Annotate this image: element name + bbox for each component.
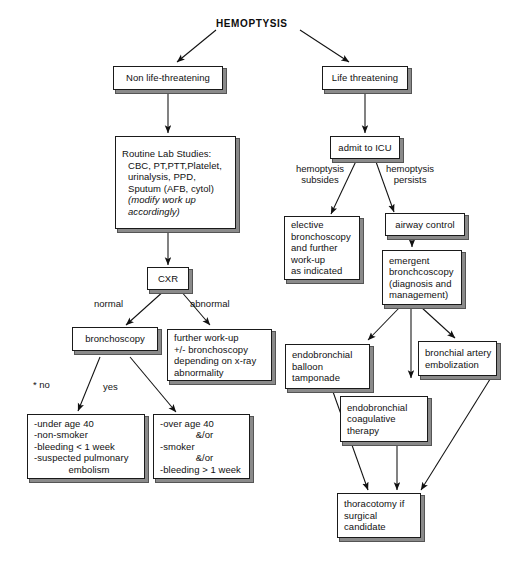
balloon-line-3: tamponade [292, 372, 340, 384]
elective-line-2: bronchoscopy [291, 231, 351, 243]
lab-line-2: CBC, PT,PTT,Platelet, [122, 160, 222, 172]
lab-line-5: (modify work up [122, 194, 196, 206]
edge-label-normal: normal [94, 298, 123, 309]
edge-embolization-to-thoracotomy [421, 376, 492, 490]
edge-cxr-to-bronch [126, 290, 165, 325]
node-label: admit to ICU [338, 142, 391, 154]
coagulative-line-2: coagulative [347, 413, 396, 425]
node-label: airway control [395, 219, 454, 231]
embolization-line-1: bronchial artery [425, 347, 491, 359]
edge-label-no: * no [33, 379, 50, 390]
node-bronchial-artery-embolization[interactable]: bronchial artery embolization [418, 341, 497, 376]
node-routine-lab-studies[interactable]: Routine Lab Studies: CBC, PT,PTT,Platele… [115, 136, 236, 229]
persists-line-1: hemoptysis [386, 163, 434, 174]
edge-label-abnormal: abnormal [190, 298, 230, 309]
thoracotomy-line-3: candidate [344, 521, 386, 533]
balloon-line-1: endobronchial [292, 349, 352, 361]
coagulative-line-3: therapy [347, 425, 379, 437]
highrisk-line-1: -over age 40 [160, 418, 214, 430]
edge-emergent-to-embolization [421, 307, 455, 338]
edge-title-to-nonlife [177, 30, 216, 62]
edge-title-to-life [300, 30, 349, 62]
node-bronchoscopy[interactable]: bronchoscopy [72, 327, 158, 351]
node-life-threatening[interactable]: Life threatening [322, 66, 408, 90]
lab-line-6: accordingly) [122, 206, 180, 218]
subsides-line-2: subsides [301, 174, 339, 185]
elective-line-5: as indicated [291, 265, 342, 277]
further-line-1: further work-up [174, 332, 239, 344]
balloon-line-2: balloon [292, 361, 323, 373]
further-line-4: abnormality [174, 367, 224, 379]
emergent-line-1: emergent [389, 255, 430, 267]
subsides-line-1: hemoptysis [296, 163, 344, 174]
highrisk-line-3: -smoker [160, 441, 195, 453]
thoracotomy-line-2: surgical [344, 510, 377, 522]
further-line-3: depending on x-ray [174, 355, 256, 367]
emergent-line-2: bronchcoscopy [389, 266, 454, 278]
lab-line-1: Routine Lab Studies: [122, 148, 211, 160]
page-title: HEMOPTYSIS [216, 18, 288, 29]
lowrisk-line-5: embolism [34, 464, 144, 476]
lab-line-4: Sputum (AFB, cytol) [122, 183, 214, 195]
edge-label-hemoptysis-persists: hemoptysispersists [386, 163, 434, 185]
node-thoracotomy[interactable]: thoracotomy if surgical candidate [337, 493, 421, 538]
thoracotomy-line-1: thoracotomy if [344, 498, 404, 510]
lowrisk-line-1: -under age 40 [34, 418, 94, 430]
edge-label-yes: yes [103, 381, 118, 392]
edge-emergent-to-balloon [368, 307, 400, 340]
node-label: bronchoscopy [85, 333, 145, 345]
coagulative-line-1: endobronchial [347, 402, 407, 414]
node-label: Non life-threatening [126, 72, 210, 84]
elective-line-4: work-up [291, 254, 325, 266]
emergent-line-4: management) [389, 289, 448, 301]
edge-label-hemoptysis-subsides: hemoptysissubsides [296, 163, 344, 185]
node-non-life-threatening[interactable]: Non life-threatening [113, 66, 223, 90]
lowrisk-line-3: -bleeding < 1 week [34, 441, 115, 453]
elective-line-3: and further [291, 242, 338, 254]
persists-line-2: persists [394, 174, 427, 185]
embolization-line-2: embolization [425, 359, 479, 371]
emergent-line-3: (diagnosis and [389, 278, 452, 290]
node-emergent-bronchoscopy[interactable]: emergent bronchcoscopy (diagnosis and ma… [382, 250, 462, 305]
node-low-risk-criteria[interactable]: -under age 40 -non-smoker -bleeding < 1 … [27, 414, 145, 479]
node-admit-icu[interactable]: admit to ICU [330, 136, 400, 159]
edge-bronch-to-lowrisk [78, 357, 100, 411]
node-coagulative-therapy[interactable]: endobronchial coagulative therapy [340, 396, 428, 442]
flowchart-canvas: HEMOPTYSIS Non life-threatening Routine … [0, 0, 524, 578]
lowrisk-line-4: -suspected pulmonary [34, 452, 128, 464]
node-high-risk-criteria[interactable]: -over age 40 &/or -smoker &/or -bleeding… [153, 414, 250, 479]
node-balloon-tamponade[interactable]: endobronchial balloon tamponade [285, 344, 370, 389]
node-elective-bronchoscopy[interactable]: elective bronchoscopy and further work-u… [284, 216, 360, 280]
highrisk-line-2: &/or [160, 429, 249, 441]
node-cxr[interactable]: CXR [147, 267, 189, 290]
elective-line-1: elective [291, 219, 324, 231]
node-label: CXR [158, 273, 178, 285]
node-label: Life threatening [332, 72, 398, 84]
further-line-2: +/- bronchoscopy [174, 344, 248, 356]
highrisk-line-5: -bleeding > 1 week [160, 464, 241, 476]
lowrisk-line-2: -non-smoker [34, 429, 88, 441]
node-further-workup[interactable]: further work-up +/- bronchoscopy dependi… [167, 329, 272, 381]
lab-line-3: urinalysis, PPD, [122, 171, 196, 183]
highrisk-line-4: &/or [160, 452, 249, 464]
node-airway-control[interactable]: airway control [385, 213, 465, 236]
